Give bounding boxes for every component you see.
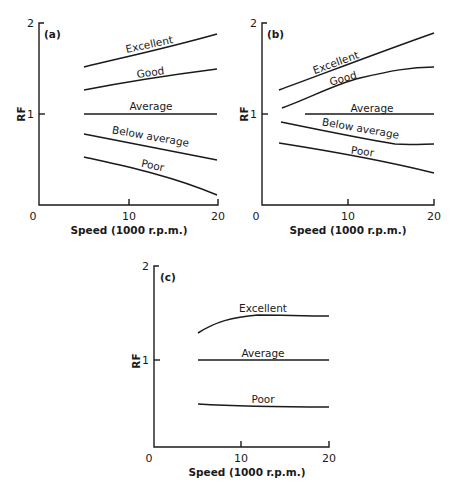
series-label-average: Average [241, 347, 284, 359]
series-label-below-average: Below average [111, 123, 190, 148]
y-tick-label: 1 [142, 354, 149, 367]
panel-label: (b) [267, 28, 284, 40]
series-excellent [198, 315, 329, 333]
y-tick-label: 1 [250, 108, 257, 121]
x-tick-label: 0 [30, 210, 37, 223]
y-axis-label: RF [15, 106, 27, 121]
panel-label: (a) [44, 28, 61, 40]
series-label-good: Good [328, 69, 358, 88]
panel-a: 2 1 0 10 20 Speed (1000 r.p.m.) RF (a) E… [15, 17, 225, 236]
y-tick-label: 1 [27, 108, 34, 121]
x-tick-label: 20 [211, 210, 225, 223]
y-tick-label: 2 [142, 260, 149, 273]
y-axis-label: RF [238, 106, 250, 121]
x-axis-label: Speed (1000 r.p.m.) [289, 224, 406, 236]
series-label-excellent: Excellent [239, 302, 287, 314]
y-tick-label: 2 [250, 17, 257, 30]
x-tick-label: 0 [146, 452, 153, 465]
y-tick-label: 2 [27, 17, 34, 30]
x-axis-label: Speed (1000 r.p.m.) [70, 224, 187, 236]
series-label-poor: Poor [251, 393, 275, 405]
series-label-below-average: Below average [321, 115, 400, 140]
panel-label: (c) [160, 271, 176, 283]
panel-c: 2 1 0 10 20 Speed (1000 r.p.m.) RF (c) E… [130, 260, 336, 478]
series-label-average: Average [350, 102, 393, 114]
series-excellent [279, 33, 434, 90]
x-tick-label: 0 [253, 210, 260, 223]
series-label-average: Average [129, 100, 172, 112]
x-axis-label: Speed (1000 r.p.m.) [188, 466, 305, 478]
x-tick-label: 10 [122, 210, 136, 223]
x-tick-label: 10 [234, 452, 248, 465]
panel-b: 2 1 0 10 20 Speed (1000 r.p.m.) RF (b) E… [238, 17, 441, 236]
figure: 2 1 0 10 20 Speed (1000 r.p.m.) RF (a) E… [0, 0, 455, 487]
x-tick-label: 20 [322, 452, 336, 465]
x-tick-label: 10 [341, 210, 355, 223]
y-axis-label: RF [130, 353, 142, 368]
x-tick-label: 20 [427, 210, 441, 223]
